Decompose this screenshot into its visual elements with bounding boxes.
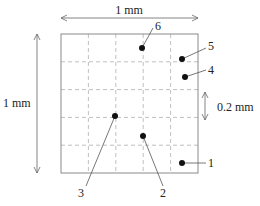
point-label-5: 5 bbox=[208, 39, 214, 53]
point-label-4: 4 bbox=[208, 63, 214, 77]
sampling-grid-diagram: 1 mm 1 mm 0.2 mm bbox=[0, 0, 260, 206]
point-label-3: 3 bbox=[78, 186, 84, 200]
point-label-2: 2 bbox=[160, 186, 166, 200]
height-label: 1 mm bbox=[3, 96, 31, 110]
width-dimension: 1 mm bbox=[61, 3, 198, 21]
point-6 bbox=[139, 45, 145, 51]
grid-lines bbox=[61, 34, 198, 173]
cell-dimension: 0.2 mm bbox=[202, 92, 254, 120]
point-5 bbox=[179, 56, 185, 62]
height-dimension: 1 mm bbox=[3, 34, 40, 173]
sample-area-frame bbox=[61, 34, 198, 173]
point-3 bbox=[112, 113, 118, 119]
point-label-6: 6 bbox=[155, 19, 161, 33]
point-4 bbox=[182, 74, 188, 80]
leader-lines bbox=[86, 28, 206, 186]
point-1 bbox=[179, 160, 185, 166]
sample-points bbox=[112, 45, 188, 166]
width-label: 1 mm bbox=[115, 3, 143, 17]
point-label-1: 1 bbox=[208, 156, 214, 170]
cell-size-label: 0.2 mm bbox=[217, 100, 254, 114]
point-2 bbox=[140, 133, 146, 139]
